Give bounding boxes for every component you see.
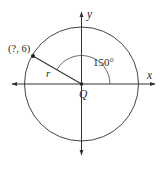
angle-label: 150° (93, 56, 114, 68)
point-on-circle (31, 54, 35, 58)
coordinate-diagram: (?, 6) r 150° Q x y (0, 0, 160, 169)
center-point (80, 82, 84, 86)
y-axis-label: y (86, 8, 93, 21)
radius-line (33, 56, 82, 84)
point-label: (?, 6) (8, 43, 31, 55)
radius-label: r (46, 67, 51, 79)
origin-label: Q (79, 88, 88, 100)
x-axis-label: x (146, 69, 153, 81)
